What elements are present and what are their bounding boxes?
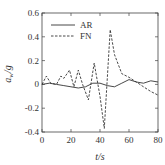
x-tick-label: 60 — [125, 135, 135, 145]
svg-text:aw/g: aw/g — [2, 65, 15, 82]
x-tick-label: 80 — [154, 135, 164, 145]
y-tick-label: 0.4 — [28, 32, 40, 42]
series-ar-line — [42, 80, 158, 88]
x-tick-label: 20 — [67, 135, 77, 145]
y-tick-label: 0 — [35, 79, 40, 89]
x-tick-label: 40 — [96, 135, 106, 145]
y-axis-label: aw/g — [2, 65, 15, 82]
legend-label-fn: FN — [80, 31, 92, 41]
series-fn-line — [42, 30, 158, 129]
legend-label-ar: AR — [80, 20, 93, 30]
y-tick-label: -0.4 — [25, 127, 40, 137]
line-chart: -0.4-0.200.20.40.6 020406080 ARFN t/s aw… — [0, 0, 165, 165]
x-tick-label: 0 — [40, 135, 45, 145]
y-tick-label: 0.2 — [28, 56, 39, 66]
x-axis-label: t/s — [95, 151, 105, 162]
data-series — [42, 30, 158, 129]
y-tick-label: 0.6 — [28, 8, 40, 18]
y-tick-label: -0.2 — [25, 103, 39, 113]
plot-frame — [42, 13, 158, 132]
x-axis-ticks: 020406080 — [40, 13, 163, 145]
legend: ARFN — [51, 20, 93, 41]
